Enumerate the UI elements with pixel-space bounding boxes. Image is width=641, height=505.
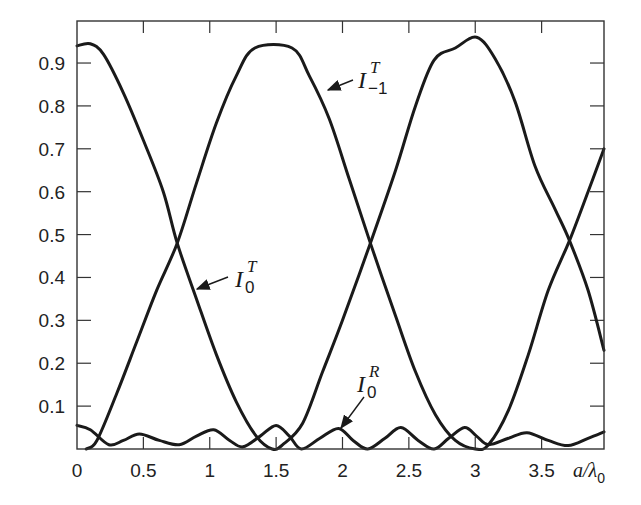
svg-text:T: T xyxy=(247,257,258,276)
y-tick-label: 0.6 xyxy=(39,182,65,203)
y-tick-label: 0.7 xyxy=(39,139,65,160)
annotation-I0R: IR0 xyxy=(356,362,380,402)
y-tick-label: 0.4 xyxy=(39,267,66,288)
curves xyxy=(77,37,604,450)
annotation-arrow-icon xyxy=(328,80,353,90)
x-tick-label: 0.5 xyxy=(130,460,156,481)
y-tick-label: 0.9 xyxy=(39,53,65,74)
annotation-I-1T: IT−1 xyxy=(357,58,387,98)
y-tick-label: 0.5 xyxy=(39,225,65,246)
svg-text:R: R xyxy=(368,362,380,381)
svg-text:I: I xyxy=(234,266,244,292)
chart: 00.511.522.533.50.10.20.30.40.50.60.70.8… xyxy=(0,0,641,505)
x-tick-label: 3.5 xyxy=(528,460,554,481)
series-annotations: IT−1IT0IR0 xyxy=(197,58,387,428)
svg-text:I: I xyxy=(357,67,367,93)
svg-text:I: I xyxy=(356,371,366,397)
x-tick-label: 0 xyxy=(72,460,83,481)
x-tick-label: 1.5 xyxy=(263,460,289,481)
svg-text:0: 0 xyxy=(367,383,376,402)
series-I0T-line xyxy=(77,37,604,449)
y-tick-label: 0.2 xyxy=(39,353,65,374)
y-tick-label: 0.8 xyxy=(39,96,65,117)
series-I0R-line xyxy=(77,425,604,449)
y-tick-label: 0.1 xyxy=(39,396,65,417)
x-tick-label: 1 xyxy=(204,460,215,481)
annotation-I0T: IT0 xyxy=(234,257,258,297)
x-tick-label: 2 xyxy=(337,460,348,481)
tick-labels: 00.511.522.533.50.10.20.30.40.50.60.70.8… xyxy=(39,53,555,481)
x-tick-label: 2.5 xyxy=(396,460,422,481)
svg-text:−1: −1 xyxy=(368,79,387,98)
x-axis-label: a/λ0 xyxy=(573,459,605,486)
svg-text:T: T xyxy=(370,58,381,77)
annotation-arrow-icon xyxy=(341,397,364,428)
series-I-1T-line xyxy=(86,45,604,450)
x-tick-label: 3 xyxy=(470,460,481,481)
svg-text:0: 0 xyxy=(245,278,254,297)
annotation-arrow-icon xyxy=(197,277,228,289)
y-tick-label: 0.3 xyxy=(39,310,65,331)
